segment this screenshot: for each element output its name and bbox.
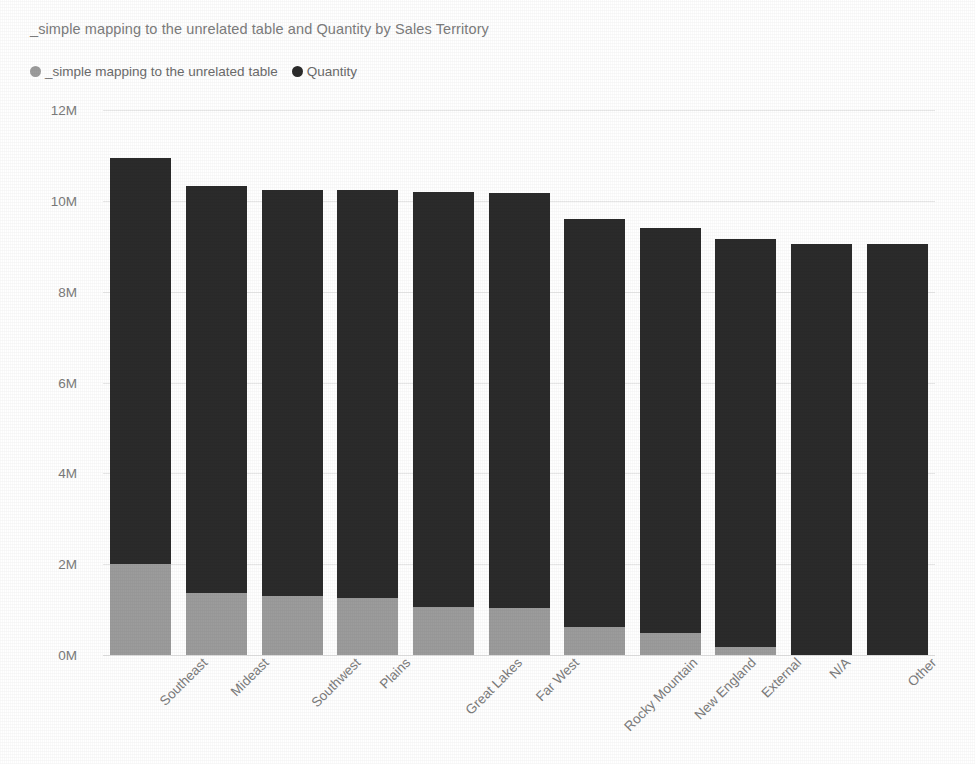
- bar-segment-simple-mapping[interactable]: [110, 564, 171, 655]
- bar-segment-quantity[interactable]: [262, 190, 323, 596]
- bar-column[interactable]: [110, 158, 171, 655]
- bar-segment-simple-mapping[interactable]: [489, 608, 550, 655]
- bar-column[interactable]: [715, 239, 776, 655]
- bar-segment-quantity[interactable]: [489, 193, 550, 608]
- x-axis-tick-label: External: [758, 655, 804, 701]
- bar-segment-simple-mapping[interactable]: [715, 647, 776, 655]
- bar-segment-quantity[interactable]: [791, 244, 852, 655]
- bar-segment-quantity[interactable]: [715, 239, 776, 646]
- bar-column[interactable]: [413, 192, 474, 655]
- bar-segment-quantity[interactable]: [564, 219, 625, 627]
- bar-column[interactable]: [867, 244, 928, 655]
- y-axis-tick-label: 10M: [51, 193, 77, 208]
- legend-item-simple-mapping[interactable]: _simple mapping to the unrelated table: [30, 65, 278, 79]
- bar-column[interactable]: [262, 190, 323, 655]
- y-axis-tick-label: 4M: [58, 466, 77, 481]
- bar-segment-quantity[interactable]: [640, 228, 701, 633]
- x-axis-tick-label: Other: [905, 655, 939, 689]
- bar-segment-quantity[interactable]: [186, 186, 247, 593]
- bar-segment-simple-mapping[interactable]: [186, 593, 247, 655]
- bar-segment-simple-mapping[interactable]: [413, 607, 474, 655]
- chart-title: _simple mapping to the unrelated table a…: [30, 21, 489, 37]
- bar-segment-simple-mapping[interactable]: [337, 598, 398, 655]
- bar-column[interactable]: [564, 219, 625, 655]
- y-axis: 12M10M8M6M4M2M0M: [0, 110, 85, 655]
- x-axis-tick-label: Southwest: [309, 655, 364, 710]
- x-axis-tick-label: New England: [692, 655, 759, 722]
- legend-item-quantity[interactable]: Quantity: [292, 65, 357, 79]
- x-axis-tick-label: Mideast: [228, 655, 272, 699]
- y-axis-tick-label: 6M: [58, 375, 77, 390]
- x-axis-tick-label: N/A: [826, 655, 853, 682]
- bar-segment-simple-mapping[interactable]: [262, 596, 323, 655]
- x-axis-tick-label: Plains: [376, 655, 413, 692]
- x-axis-tick-label: Great Lakes: [463, 655, 526, 718]
- bar-segment-quantity[interactable]: [337, 190, 398, 598]
- x-axis-tick-label: Southeast: [157, 655, 211, 709]
- x-axis-tick-label: Rocky Mountain: [621, 655, 700, 734]
- bar-segment-simple-mapping[interactable]: [640, 633, 701, 655]
- bar-segment-quantity[interactable]: [867, 244, 928, 655]
- legend-swatch-circle-icon: [292, 66, 303, 77]
- x-axis-tick-label: Far West: [533, 655, 582, 704]
- bar-column[interactable]: [186, 186, 247, 655]
- x-axis: SoutheastMideastSouthwestPlainsGreat Lak…: [103, 655, 935, 760]
- bar-segment-simple-mapping[interactable]: [564, 627, 625, 655]
- bar-column[interactable]: [791, 244, 852, 655]
- bar-column[interactable]: [640, 228, 701, 655]
- y-axis-tick-label: 0M: [58, 648, 77, 663]
- legend-item-label: Quantity: [307, 65, 357, 79]
- y-axis-tick-label: 12M: [51, 103, 77, 118]
- bar-segment-quantity[interactable]: [413, 192, 474, 607]
- y-axis-tick-label: 2M: [58, 557, 77, 572]
- bar-segment-quantity[interactable]: [110, 158, 171, 564]
- plot-area: [103, 110, 935, 655]
- legend-item-label: _simple mapping to the unrelated table: [45, 65, 278, 79]
- chart-visual: _simple mapping to the unrelated table a…: [0, 0, 975, 764]
- bar-series-layer: [103, 110, 935, 655]
- bar-column[interactable]: [337, 190, 398, 655]
- y-axis-tick-label: 8M: [58, 284, 77, 299]
- chart-legend: _simple mapping to the unrelated table Q…: [30, 65, 357, 79]
- legend-swatch-circle-icon: [30, 66, 41, 77]
- bar-column[interactable]: [489, 193, 550, 655]
